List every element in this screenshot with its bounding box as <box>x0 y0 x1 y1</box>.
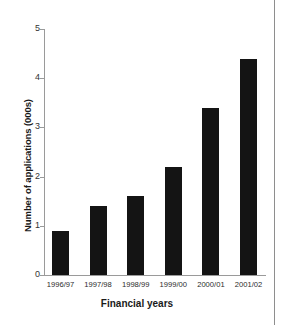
x-axis-tick-label: 1997/98 <box>79 280 117 289</box>
bar <box>90 206 107 275</box>
y-axis-title: Number of applications (000s) <box>22 71 33 261</box>
y-axis-line <box>44 29 45 276</box>
chart-page: Number of applications (000s) 012345 199… <box>0 0 285 325</box>
bar <box>202 108 219 275</box>
page-column-rule <box>274 0 275 325</box>
x-axis-tick-label: 2000/01 <box>192 280 230 289</box>
bar-chart: Number of applications (000s) 012345 199… <box>0 0 274 325</box>
y-axis-tick-mark <box>40 78 45 79</box>
bar <box>165 167 182 275</box>
bar <box>240 59 257 275</box>
bar <box>127 196 144 275</box>
y-axis-tick-label: 5 <box>35 23 40 33</box>
x-axis-tick-label: 1998/99 <box>117 280 155 289</box>
x-axis-line <box>44 275 266 276</box>
y-axis-tick-mark <box>40 29 45 30</box>
x-axis-tick-label: 1996/97 <box>42 280 80 289</box>
y-axis-tick-label: 1 <box>35 220 40 230</box>
plot-area: 012345 1996/971997/981998/991999/002000/… <box>44 20 268 282</box>
y-axis-tick-mark <box>40 226 45 227</box>
y-axis-tick-label: 0 <box>35 269 40 279</box>
bar <box>52 231 69 275</box>
x-axis-tick-label: 1999/00 <box>154 280 192 289</box>
x-axis-tick-label: 2001/02 <box>230 280 268 289</box>
y-axis-tick-mark <box>40 275 45 276</box>
y-axis-tick-mark <box>40 127 45 128</box>
y-axis-tick-label: 2 <box>35 171 40 181</box>
y-axis-tick-label: 4 <box>35 72 40 82</box>
x-axis-title: Financial years <box>0 298 274 309</box>
y-axis-tick-label: 3 <box>35 121 40 131</box>
y-axis-tick-mark <box>40 177 45 178</box>
